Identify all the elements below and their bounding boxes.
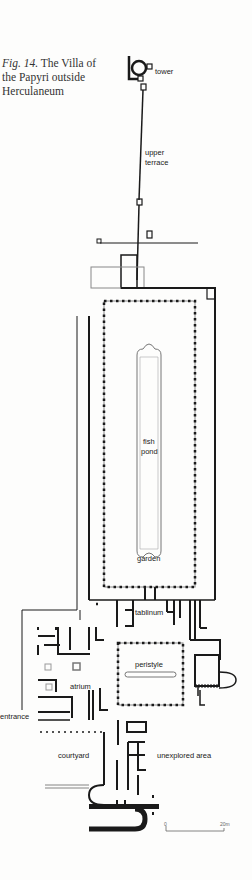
label-fish: fish [143, 437, 155, 446]
label-tower: tower [155, 67, 174, 76]
scale-start: 0 [164, 821, 167, 827]
label-atrium: atrium [70, 682, 91, 691]
label-entrance: entrance [0, 712, 29, 721]
tower-structure [129, 56, 152, 90]
label-tablinum: tablinum [135, 608, 163, 617]
label-unexplored-area: unexplored area [157, 751, 212, 760]
scale-end: 20m [220, 821, 230, 827]
villa-floor-plan: tower upper terrace fish pond garden tab… [0, 0, 252, 880]
label-courtyard: courtyard [58, 751, 89, 760]
label-upper-terrace-1: upper [145, 148, 165, 157]
label-garden: garden [137, 554, 160, 563]
label-pond: pond [141, 447, 158, 456]
label-peristyle: peristyle [135, 660, 163, 669]
label-upper-terrace-2: terrace [145, 158, 168, 167]
